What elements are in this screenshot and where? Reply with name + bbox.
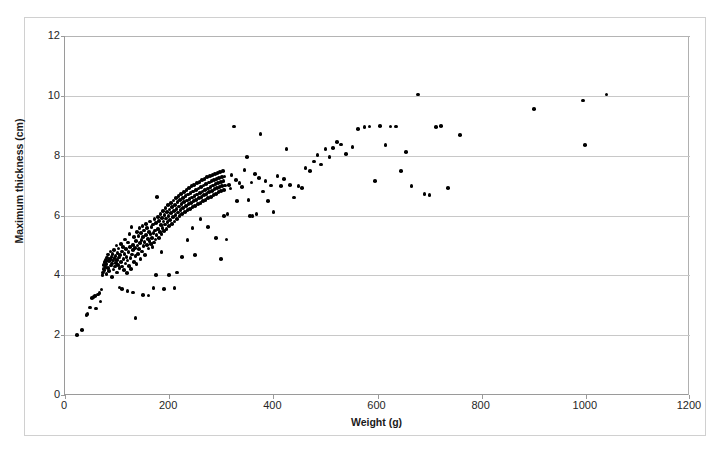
data-point: [257, 176, 261, 180]
data-point: [446, 186, 450, 190]
data-point: [152, 241, 156, 245]
data-point: [389, 125, 393, 129]
y-tick-label-0: 0: [30, 389, 60, 400]
data-point: [222, 179, 226, 183]
data-point: [331, 146, 335, 150]
data-point: [269, 184, 273, 188]
data-point: [118, 253, 122, 257]
y-tick-label-4: 4: [30, 269, 60, 280]
data-point: [225, 238, 229, 242]
data-point: [214, 236, 218, 240]
data-point: [167, 273, 171, 277]
data-point: [129, 267, 133, 271]
data-point: [368, 125, 372, 129]
data-point: [154, 273, 158, 277]
data-point: [259, 132, 263, 136]
y-axis-tick-labels: 024681012: [28, 36, 60, 395]
data-point: [125, 271, 129, 275]
data-point: [223, 184, 227, 188]
data-point: [221, 169, 225, 173]
data-point: [304, 166, 308, 170]
data-point: [126, 241, 130, 245]
data-point: [416, 93, 420, 97]
data-point: [226, 212, 230, 216]
data-point: [223, 175, 227, 179]
data-point: [276, 174, 280, 178]
data-point: [363, 125, 367, 129]
data-point: [110, 275, 114, 279]
y-tick-label-2: 2: [30, 329, 60, 340]
plot-area: [64, 36, 689, 395]
data-point: [131, 291, 135, 295]
data-point: [243, 168, 247, 172]
data-point: [312, 160, 316, 164]
x-tick-label-1200: 1200: [664, 400, 714, 411]
data-point: [458, 133, 462, 137]
data-point: [344, 152, 348, 156]
data-point: [162, 287, 166, 291]
x-tick-label-0: 0: [39, 400, 89, 411]
data-point: [292, 196, 296, 200]
data-point: [100, 288, 104, 292]
data-point: [147, 247, 151, 251]
data-point: [130, 225, 134, 229]
data-point: [378, 124, 382, 128]
data-point: [428, 193, 432, 197]
y-tick-label-10: 10: [30, 90, 60, 101]
data-point: [180, 255, 184, 259]
data-point: [193, 253, 197, 257]
x-tick-label-400: 400: [247, 400, 297, 411]
data-point: [157, 236, 161, 240]
data-point: [583, 143, 587, 147]
data-point: [232, 125, 236, 129]
x-axis-title: Weight (g): [64, 416, 689, 428]
data-point: [86, 312, 90, 316]
data-point: [264, 179, 268, 183]
data-point: [279, 184, 283, 188]
data-point: [266, 199, 270, 203]
data-point: [282, 177, 286, 181]
data-point: [316, 153, 320, 157]
data-point: [399, 169, 403, 173]
y-tick-label-8: 8: [30, 150, 60, 161]
data-point: [394, 125, 398, 129]
data-point: [423, 192, 427, 196]
data-point: [240, 185, 244, 189]
data-point: [328, 155, 332, 159]
data-point: [126, 289, 130, 293]
data-point: [88, 306, 92, 310]
data-point: [152, 286, 156, 290]
data-point: [136, 252, 140, 256]
data-point: [410, 184, 414, 188]
x-tick-label-800: 800: [456, 400, 506, 411]
data-point: [173, 286, 177, 290]
data-point: [98, 291, 102, 295]
data-point: [151, 245, 155, 249]
data-point: [288, 183, 292, 187]
data-point: [373, 179, 377, 183]
data-point: [439, 124, 443, 128]
data-point: [99, 300, 103, 304]
data-point: [434, 125, 438, 129]
data-point: [222, 188, 226, 192]
data-point: [186, 238, 190, 242]
data-point: [253, 172, 257, 176]
data-point: [143, 253, 147, 257]
data-point: [605, 93, 609, 97]
x-tick-label-600: 600: [352, 400, 402, 411]
data-point: [285, 147, 289, 151]
data-point: [356, 127, 360, 131]
data-point: [308, 169, 312, 173]
data-point: [206, 225, 210, 229]
data-points-layer: [65, 36, 690, 395]
data-point: [120, 287, 124, 291]
y-tick-label-12: 12: [30, 30, 60, 41]
x-axis-tick-labels: 020040060080010001200: [64, 400, 689, 416]
data-point: [245, 155, 249, 159]
data-point: [199, 217, 203, 221]
data-point: [250, 181, 254, 185]
data-point: [129, 256, 133, 260]
data-point: [80, 328, 84, 332]
data-point: [581, 99, 585, 103]
data-point: [247, 198, 251, 202]
